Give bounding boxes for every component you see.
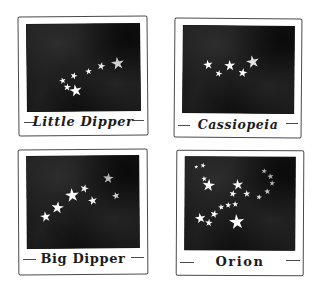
star bbox=[244, 54, 260, 70]
star bbox=[39, 211, 52, 224]
star bbox=[102, 172, 114, 184]
sky-orion bbox=[185, 157, 296, 251]
star-field bbox=[183, 26, 294, 27]
star bbox=[50, 200, 64, 214]
star bbox=[214, 69, 223, 78]
star bbox=[201, 176, 208, 183]
star bbox=[111, 191, 121, 201]
star bbox=[97, 61, 107, 71]
star bbox=[205, 218, 214, 227]
star bbox=[69, 72, 78, 81]
star bbox=[231, 178, 244, 191]
panel-little-dipper: Little Dipper bbox=[18, 16, 148, 136]
panel-label-big-dipper: Big Dipper bbox=[18, 251, 148, 266]
sky-cassiopeia bbox=[183, 26, 295, 114]
star bbox=[202, 59, 214, 71]
star bbox=[110, 56, 125, 71]
star bbox=[228, 190, 237, 199]
star bbox=[79, 183, 90, 194]
star bbox=[267, 172, 274, 179]
star bbox=[224, 59, 236, 71]
star bbox=[87, 195, 98, 206]
star bbox=[64, 187, 80, 203]
star bbox=[269, 180, 275, 186]
star bbox=[209, 209, 219, 219]
star bbox=[260, 168, 267, 175]
panel-label-little-dipper: Little Dipper bbox=[18, 114, 148, 129]
star bbox=[243, 190, 251, 198]
star bbox=[194, 212, 207, 225]
sky-big-dipper bbox=[27, 156, 140, 249]
star bbox=[202, 178, 216, 192]
star bbox=[228, 213, 245, 230]
star-field bbox=[27, 23, 140, 24]
constellation-sheet: Little Dipper Cassiopeia Big Dipper Orio… bbox=[0, 0, 315, 291]
star bbox=[224, 202, 231, 209]
star bbox=[194, 165, 199, 170]
star bbox=[232, 201, 239, 208]
star bbox=[58, 77, 67, 86]
star bbox=[237, 68, 248, 79]
star bbox=[84, 68, 92, 76]
panel-big-dipper: Big Dipper bbox=[18, 149, 148, 275]
panel-label-orion: Orion bbox=[176, 254, 304, 269]
star-field bbox=[185, 157, 295, 158]
panel-orion: Orion bbox=[176, 150, 304, 276]
sky-little-dipper bbox=[27, 23, 141, 111]
panel-label-cassiopeia: Cassiopeia bbox=[174, 117, 302, 132]
star-field bbox=[27, 156, 139, 157]
star bbox=[68, 83, 83, 98]
star bbox=[200, 162, 206, 168]
star bbox=[256, 194, 263, 201]
star bbox=[217, 203, 224, 210]
star bbox=[264, 188, 271, 195]
panel-cassiopeia: Cassiopeia bbox=[174, 18, 302, 138]
